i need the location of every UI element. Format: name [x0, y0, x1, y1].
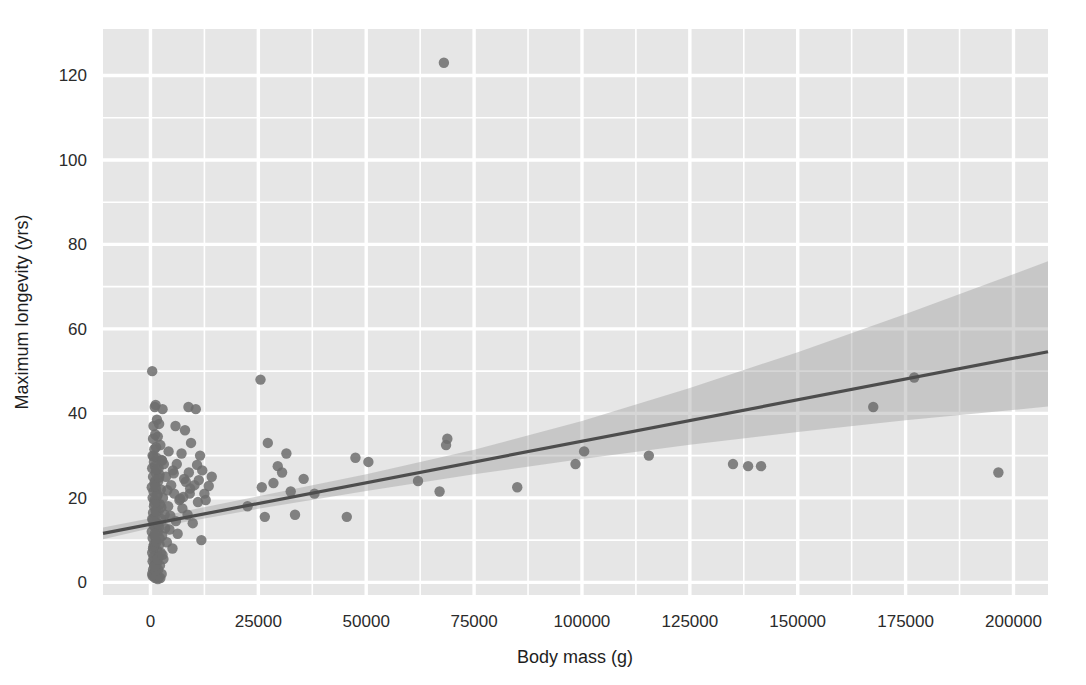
scatter-point: [570, 459, 580, 469]
scatter-point: [281, 448, 291, 458]
scatter-point: [363, 457, 373, 467]
scatter-point: [178, 492, 188, 502]
scatter-point: [268, 478, 278, 488]
y-tick-label: 100: [59, 151, 87, 170]
scatter-point: [204, 481, 214, 491]
y-tick-label: 20: [68, 489, 87, 508]
x-axis-title: Body mass (g): [517, 647, 633, 667]
scatter-point: [257, 482, 267, 492]
scatter-point: [728, 459, 738, 469]
scatter-point: [868, 402, 878, 412]
y-tick-label: 0: [78, 573, 87, 592]
scatter-point: [169, 468, 179, 478]
scatter-point: [188, 518, 198, 528]
y-tick-label: 40: [68, 404, 87, 423]
scatter-point: [150, 529, 160, 539]
scatter-point: [342, 512, 352, 522]
x-axis-tick-labels: 0250005000075000100000125000150000175000…: [146, 612, 1042, 631]
scatter-point: [298, 474, 308, 484]
scatter-plot-svg: 0250005000075000100000125000150000175000…: [0, 0, 1086, 685]
scatter-point: [167, 543, 177, 553]
scatter-point: [993, 467, 1003, 477]
scatter-point: [644, 450, 654, 460]
scatter-point: [170, 421, 180, 431]
x-tick-label: 75000: [450, 612, 497, 631]
scatter-point: [263, 438, 273, 448]
scatter-point: [185, 483, 195, 493]
scatter-point: [207, 472, 217, 482]
x-tick-label: 175000: [877, 612, 934, 631]
scatter-point: [196, 535, 206, 545]
x-tick-label: 150000: [769, 612, 826, 631]
x-tick-label: 50000: [343, 612, 390, 631]
scatter-point: [255, 374, 265, 384]
scatter-point: [148, 451, 158, 461]
x-tick-label: 125000: [661, 612, 718, 631]
scatter-point: [172, 529, 182, 539]
scatter-point: [350, 453, 360, 463]
scatter-point: [413, 476, 423, 486]
scatter-point: [191, 404, 201, 414]
scatter-point: [277, 467, 287, 477]
scatter-point: [194, 475, 204, 485]
scatter-point: [197, 465, 207, 475]
scatter-point: [200, 495, 210, 505]
x-tick-label: 200000: [985, 612, 1042, 631]
y-axis-title: Maximum longevity (yrs): [12, 214, 32, 409]
x-tick-label: 100000: [554, 612, 611, 631]
scatter-point: [442, 434, 452, 444]
scatter-point: [180, 425, 190, 435]
scatter-point: [186, 438, 196, 448]
scatter-point: [162, 485, 172, 495]
scatter-point: [434, 486, 444, 496]
scatter-point: [157, 550, 167, 560]
x-tick-label: 0: [146, 612, 155, 631]
scatter-point: [579, 446, 589, 456]
scatter-point: [260, 512, 270, 522]
scatter-point: [176, 448, 186, 458]
scatter-point: [512, 482, 522, 492]
y-tick-label: 60: [68, 320, 87, 339]
chart-figure: 0250005000075000100000125000150000175000…: [0, 0, 1086, 685]
scatter-point: [439, 58, 449, 68]
scatter-point: [163, 446, 173, 456]
scatter-point: [157, 404, 167, 414]
scatter-point: [290, 510, 300, 520]
scatter-point: [195, 450, 205, 460]
x-tick-label: 25000: [235, 612, 282, 631]
scatter-point: [147, 366, 157, 376]
scatter-point: [743, 461, 753, 471]
y-tick-label: 80: [68, 235, 87, 254]
y-tick-label: 120: [59, 66, 87, 85]
scatter-point: [756, 461, 766, 471]
